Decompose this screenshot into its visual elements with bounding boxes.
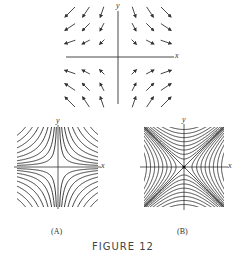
vector-arrow: [82, 23, 89, 30]
vector-arrow: [146, 40, 154, 44]
vector-arrow: [161, 24, 171, 31]
hyperbola-curve: [85, 197, 100, 214]
figure-canvas: [0, 0, 245, 267]
hyperbola-curve: [75, 121, 101, 149]
vector-arrow: [146, 70, 154, 74]
hyperbola-curve: [70, 181, 101, 216]
vector-arrow: [82, 40, 90, 44]
vector-arrow: [161, 70, 172, 74]
vector-arrow: [100, 7, 104, 18]
panel-a-plot: [14, 119, 101, 215]
panel-a-y-label: y: [56, 116, 60, 125]
hyperbola-curve: [60, 169, 101, 210]
vector-arrow: [65, 70, 76, 74]
hyperbola-curve: [85, 120, 100, 137]
vector-arrow: [132, 97, 136, 108]
hyperbola-curve: [60, 124, 101, 165]
vector-arrow: [82, 70, 90, 74]
panel-b-label: (B): [177, 227, 188, 236]
vector-arrow: [65, 40, 76, 44]
vector-arrow: [147, 7, 154, 17]
vector-arrow: [161, 84, 171, 91]
vector-arrow: [65, 84, 75, 91]
hyperbola-curve: [15, 169, 56, 210]
vector-arrow: [132, 70, 137, 75]
vector-arrow: [132, 7, 136, 18]
vector-arrow: [83, 7, 90, 17]
vector-arrow: [132, 40, 137, 45]
vector-arrow: [161, 7, 171, 17]
hyperbola-curve: [15, 120, 30, 137]
vector-arrow: [83, 97, 90, 107]
vector-arrow: [161, 40, 172, 44]
vf-y-label: y: [116, 1, 120, 10]
panel-b-origin-dot: [182, 165, 185, 168]
vector-arrow: [100, 40, 105, 45]
vector-arrow: [65, 97, 75, 107]
panel-a-label: (A): [51, 227, 62, 236]
hyperbola-curve: [15, 197, 30, 214]
vector-arrow: [100, 97, 104, 108]
vector-arrow: [161, 97, 171, 107]
hyperbola-curve: [70, 119, 101, 154]
vector-arrow: [65, 7, 75, 17]
vector-field-plot: [65, 7, 174, 108]
hyperbola-curve: [64, 122, 101, 161]
vector-arrow: [147, 97, 154, 107]
hyperbola-curve: [75, 185, 101, 213]
vector-arrow: [100, 23, 104, 31]
hyperbola-curve: [15, 185, 41, 213]
vector-arrow: [65, 24, 75, 31]
hyperbola-curve: [15, 173, 52, 212]
panel-b-y-label: y: [182, 115, 186, 124]
panel-b-plot: [125, 108, 244, 227]
hyperbola-curve: [15, 120, 36, 143]
hyperbola-curve: [15, 122, 52, 161]
hyperbola-curve: [15, 181, 46, 216]
vector-arrow: [132, 23, 136, 31]
hyperbola-curve: [15, 124, 56, 165]
vector-arrow: [146, 23, 153, 30]
hyperbola-curve: [15, 191, 36, 214]
vector-arrow: [132, 83, 136, 91]
hyperbola-curve: [15, 119, 46, 154]
hyperbola-curve: [15, 121, 41, 149]
figure-caption: FIGURE 12: [92, 241, 154, 252]
hyperbola-curve: [80, 191, 101, 214]
vector-arrow: [100, 83, 104, 91]
vector-arrow: [100, 70, 105, 75]
panel-b-x-label: x: [228, 161, 232, 170]
hyperbola-curve: [80, 120, 101, 143]
vector-arrow: [82, 83, 89, 90]
vf-x-label: x: [175, 51, 179, 60]
vector-arrow: [146, 83, 153, 90]
panel-a-x-label: x: [101, 161, 105, 170]
hyperbola-curve: [64, 173, 101, 212]
